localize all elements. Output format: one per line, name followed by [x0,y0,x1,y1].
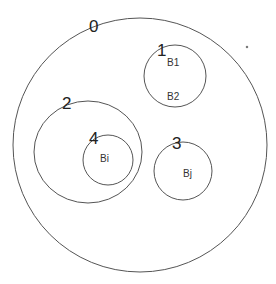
region-3-label: 3 [172,134,181,153]
region-1-item-b1: B1 [167,57,180,68]
region-3-item-bj: Bj [183,168,192,179]
region-4-item-bi: Bi [100,153,109,164]
region-0-circle [13,18,267,272]
region-4-label: 4 [89,129,98,148]
nested-circles-diagram: 0 1 B1 B2 2 4 Bi 3 Bj [0,0,276,284]
stray-dot [246,46,248,48]
region-2-label: 2 [62,94,71,113]
region-1-item-b2: B2 [167,91,180,102]
region-0-label: 0 [89,17,98,36]
region-1-label: 1 [157,41,166,60]
region-2-circle [34,101,142,203]
